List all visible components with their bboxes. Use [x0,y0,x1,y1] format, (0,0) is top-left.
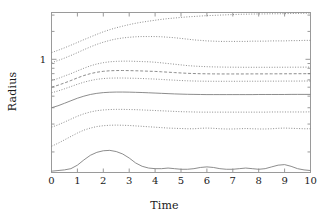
x-tick-label: 6 [204,175,210,186]
plot-area [0,0,329,223]
x-tick-label: 4 [152,175,158,186]
curve-contour-3 [52,109,311,127]
x-tick-label: 1 [74,175,80,186]
x-tick-label: 5 [178,175,184,186]
x-tick-label: 0 [48,175,54,186]
curve-contour-7 [52,61,311,80]
x-tick-label: 10 [304,175,317,186]
y-axis-ticks [52,15,311,152]
curve-contour-1 [52,150,311,171]
curve-contour-2 [52,125,311,146]
curve-contour-6 [52,71,311,88]
x-axis-ticks [52,13,311,173]
x-tick-label: 2 [100,175,106,186]
y-axis-title: Radius [6,62,19,122]
x-tick-label: 8 [256,175,262,186]
curve-contour-5 [52,78,311,93]
chart-figure: 012345678910 1 Time Radius [0,0,329,223]
x-tick-label: 3 [126,175,132,186]
x-axis-title: Time [0,199,329,212]
x-tick-label: 9 [281,175,287,186]
plot-frame [52,13,311,173]
curve-contour-8 [52,37,311,63]
curve-contour-4 [52,92,311,108]
data-curves [52,13,311,171]
x-tick-label: 7 [230,175,236,186]
y-tick-label: 1 [28,54,46,65]
